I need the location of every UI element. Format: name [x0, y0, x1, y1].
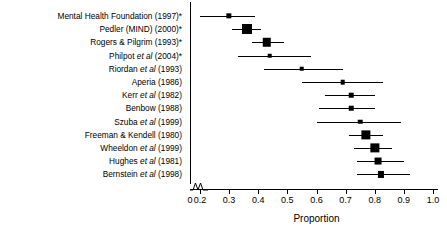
study-label: Freeman & Kendell (1980) — [85, 130, 182, 139]
point-estimate-marker — [358, 119, 363, 124]
study-label: Wheeldon et al (1999) — [100, 144, 182, 153]
x-tick-label: 0.6 — [310, 195, 323, 205]
point-estimate-marker — [340, 80, 345, 85]
point-estimate-marker — [378, 171, 384, 177]
x-tick-label: 0 — [187, 195, 192, 205]
study-label: Benbow (1988) — [126, 104, 182, 113]
x-tick-label: 1.0 — [427, 195, 440, 205]
study-label: Bernstein et al (1998) — [103, 170, 182, 179]
study-label: Pedler (MIND) (2000)* — [99, 25, 182, 34]
point-estimate-marker — [263, 38, 271, 46]
x-tick-label: 0.3 — [223, 195, 236, 205]
forest-plot-figure: Mental Health Foundation (1997)*Pedler (… — [0, 0, 447, 241]
x-axis-line — [190, 189, 438, 190]
confidence-interval-line — [319, 108, 374, 109]
point-estimate-marker — [268, 53, 273, 58]
x-tick — [229, 190, 230, 194]
point-estimate-marker — [300, 67, 305, 72]
study-label: Hughes et al (1981) — [109, 157, 182, 166]
point-estimate-marker — [349, 93, 354, 98]
x-tick — [317, 190, 318, 194]
x-tick — [287, 190, 288, 194]
axis-break-icon — [190, 181, 208, 191]
study-label: Rogers & Pilgrim (1993)* — [90, 38, 182, 47]
point-estimate-marker — [242, 24, 252, 34]
study-label: Szuba et al (1999) — [114, 117, 182, 126]
x-tick-label: 0.7 — [339, 195, 352, 205]
x-tick-label: 0.2 — [194, 195, 207, 205]
x-tick — [375, 190, 376, 194]
plot-area: 00.20.30.40.50.60.70.80.91.0 Proportion — [186, 0, 447, 241]
study-label-column: Mental Health Foundation (1997)*Pedler (… — [0, 0, 186, 182]
x-tick-label: 0.8 — [368, 195, 381, 205]
point-estimate-marker — [370, 143, 379, 152]
x-tick-label: 0.5 — [281, 195, 294, 205]
point-estimate-marker — [349, 106, 354, 111]
study-label: Riordan et al (1993) — [109, 64, 182, 73]
y-axis-line — [190, 2, 191, 184]
study-label: Aperia (1986) — [132, 78, 182, 87]
x-tick — [433, 190, 434, 194]
x-tick — [200, 190, 201, 194]
point-estimate-marker — [374, 158, 381, 165]
x-tick-label: 0.9 — [398, 195, 411, 205]
study-label: Mental Health Foundation (1997)* — [57, 12, 182, 21]
x-tick-label: 0.4 — [252, 195, 265, 205]
confidence-interval-line — [238, 56, 311, 57]
x-tick — [346, 190, 347, 194]
x-tick — [258, 190, 259, 194]
study-label: Philpot et al (2004)* — [109, 51, 182, 60]
point-estimate-marker — [361, 130, 370, 139]
x-tick — [404, 190, 405, 194]
study-label: Kerr et al (1982) — [122, 91, 182, 100]
point-estimate-marker — [226, 13, 231, 18]
x-axis-label: Proportion — [186, 213, 447, 224]
